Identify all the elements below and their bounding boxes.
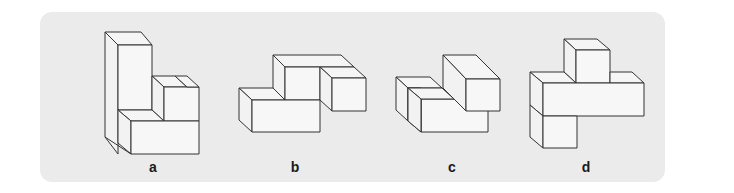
- block-figure-b[interactable]: [239, 55, 366, 132]
- option-label-a: a: [143, 159, 163, 175]
- block-figure-d[interactable]: [530, 39, 644, 148]
- option-label-b: b: [285, 159, 305, 175]
- block-figure-c[interactable]: [396, 55, 500, 132]
- block-figures: [0, 0, 734, 193]
- option-label-d: d: [576, 159, 596, 175]
- block-figure-a[interactable]: [105, 32, 199, 154]
- option-label-c: c: [442, 159, 462, 175]
